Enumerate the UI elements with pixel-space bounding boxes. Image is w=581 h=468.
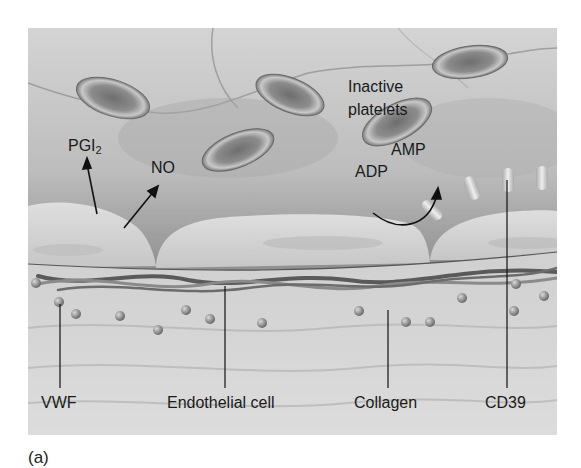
label-endothelial-cell: Endothelial cell bbox=[167, 395, 275, 411]
label-pgi2-main: PGI bbox=[68, 137, 96, 154]
label-cd39: CD39 bbox=[485, 395, 526, 411]
panel-label: (a) bbox=[28, 448, 49, 468]
label-vwf: VWF bbox=[41, 395, 77, 411]
label-inactive-platelets-line2: platelets bbox=[348, 102, 408, 118]
label-amp: AMP bbox=[391, 142, 426, 158]
vessel-wall-illustration: Inactive platelets PGI2 NO ADP AMP VWF E… bbox=[28, 28, 557, 435]
label-collagen: Collagen bbox=[354, 395, 417, 411]
label-inactive-platelets-line1: Inactive bbox=[348, 79, 403, 95]
label-adp: ADP bbox=[355, 164, 388, 180]
label-no: NO bbox=[151, 160, 175, 176]
label-pgi2-sub: 2 bbox=[96, 144, 102, 156]
illustration-canvas bbox=[28, 28, 557, 435]
label-pgi2: PGI2 bbox=[68, 138, 102, 156]
